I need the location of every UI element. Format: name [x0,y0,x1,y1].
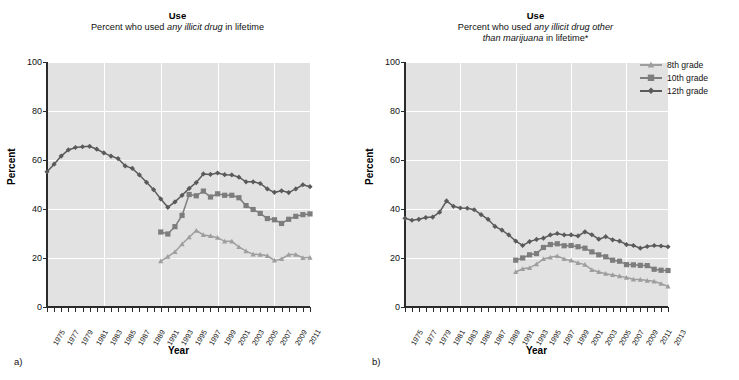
x-tick-mark [303,307,304,312]
series-marker-diamond [87,144,92,149]
series-marker-diamond [80,144,85,149]
x-tick-mark [592,307,593,312]
x-tick-mark [620,307,621,312]
y-tick-label: 0 [37,302,42,312]
chart-a-y-axis-title: Percent [6,148,17,185]
series-marker-diamond [465,206,470,211]
series-marker-diamond [208,172,213,177]
x-tick-mark [523,307,524,312]
x-tick-mark [132,307,133,312]
x-tick-mark [640,307,641,312]
x-tick-mark [516,307,517,312]
series-marker-square [300,212,305,217]
series-marker-square [236,195,241,200]
x-tick-mark [232,307,233,312]
series-marker-diamond [624,242,629,247]
y-tick-label: 20 [32,253,42,263]
x-tick-mark [104,307,105,312]
chart-b-title: Use [358,10,713,21]
x-tick-mark [433,307,434,312]
series-marker-square [617,259,622,264]
x-tick-mark [225,307,226,312]
series-marker-square [272,217,277,222]
chart-b-subtitle-part2: in lifetime* [543,33,588,43]
series-marker-square [562,243,567,248]
x-tick-mark [654,307,655,312]
y-tick-label: 100 [385,57,400,67]
x-tick-mark [218,307,219,312]
chart-b-subtitle: Percent who used any illicit drug othert… [358,22,713,44]
x-tick-mark [97,307,98,312]
x-tick-mark [75,307,76,312]
series-marker-diamond [215,170,220,175]
y-tick-label: 80 [32,106,42,116]
series-marker-diamond [286,190,291,195]
chart-b-y-axis-title: Percent [364,148,375,185]
legend-label: 10th grade [667,73,708,83]
series-marker-square [513,258,518,263]
legend-item[interactable]: 12th grade [640,84,708,97]
x-tick-mark [239,307,240,312]
series-marker-square [652,267,657,272]
x-tick-mark [626,307,627,312]
series-marker-diamond [658,243,663,248]
chart-panel-a: Use Percent who used any illicit drug in… [0,0,355,380]
series-marker-square [258,211,263,216]
series-marker-square [243,203,248,208]
chart-b-series-layer [405,62,668,307]
x-tick-mark [537,307,538,312]
series-marker-diamond [541,236,546,241]
series-marker-diamond [603,234,608,239]
series-marker-square [534,251,539,256]
x-tick-mark [203,307,204,312]
chart-b-plot-area: 020406080100 197519771979198119831985198… [405,62,668,307]
x-tick-mark [196,307,197,312]
series-marker-diamond [73,145,78,150]
series-marker-square [194,193,199,198]
x-tick-mark [571,307,572,312]
x-tick-mark [543,307,544,312]
x-tick-mark [530,307,531,312]
series-marker-diamond [569,232,574,237]
x-tick-mark [246,307,247,312]
series-12th-grade [44,144,312,210]
x-tick-mark [502,307,503,312]
x-tick-mark [260,307,261,312]
series-marker-square [208,194,213,199]
series-marker-square [658,268,663,273]
series-marker-square [582,246,587,251]
x-tick-mark [189,307,190,312]
x-tick-mark [599,307,600,312]
series-marker-diamond [610,237,615,242]
x-tick-mark [310,307,311,312]
series-marker-square [520,255,525,260]
y-tick-label: 40 [390,204,400,214]
series-marker-diamond [108,153,113,158]
series-marker-diamond [617,238,622,243]
series-marker-diamond [101,150,106,155]
diamond-icon [640,85,662,96]
x-tick-mark [168,307,169,312]
x-tick-mark [440,307,441,312]
x-tick-mark [633,307,634,312]
x-tick-mark [90,307,91,312]
legend-item[interactable]: 10th grade [640,71,708,84]
legend-label: 8th grade [667,60,703,70]
series-marker-square [555,241,560,246]
x-tick-mark [474,307,475,312]
legend-item[interactable]: 8th grade [640,58,708,71]
series-marker-square [179,213,184,218]
series-marker-square [286,217,291,222]
series-marker-diamond [645,244,650,249]
x-tick-mark [419,307,420,312]
y-tick-label: 0 [395,302,400,312]
series-marker-diamond [652,243,657,248]
x-tick-mark [412,307,413,312]
x-tick-mark [509,307,510,312]
series-marker-diamond [94,147,99,152]
x-tick-mark [175,307,176,312]
chart-b-subtitle-emphasis2: than marijuana [483,33,544,43]
series-marker-square [665,268,670,273]
x-tick-label: 2013 [672,328,688,347]
series-marker-square [229,193,234,198]
